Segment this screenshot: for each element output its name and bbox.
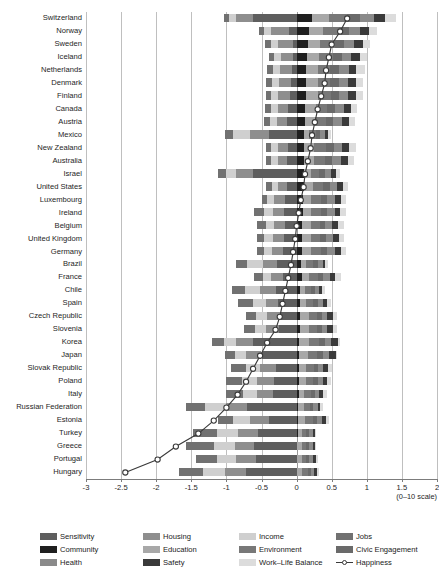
x-tick-label: -1 (223, 483, 230, 492)
happiness-marker (309, 133, 314, 138)
legend-label: Work–Life Balance (259, 559, 323, 567)
x-tick-mark (262, 479, 263, 482)
legend: SensitivityHousingIncomeJobsCommunityEdu… (40, 531, 432, 570)
legend-swatch-icon (143, 533, 160, 540)
row-label-switzerland: Switzerland (43, 12, 82, 23)
row-label-greece: Greece (57, 440, 82, 451)
happiness-marker (288, 262, 293, 267)
legend-item-health[interactable]: Health (40, 559, 82, 567)
x-tick-label: -3 (83, 483, 90, 492)
happiness-marker (308, 146, 313, 151)
happiness-marker (294, 223, 299, 228)
legend-item-happiness[interactable]: Happiness (336, 559, 392, 567)
legend-label: Jobs (356, 533, 372, 541)
x-tick-mark (332, 479, 333, 482)
legend-item-housing[interactable]: Housing (143, 533, 191, 541)
row-label-iceland: Iceland (58, 51, 83, 62)
row-label-russian-federation: Russian Federation (16, 401, 82, 412)
happiness-line (86, 12, 437, 479)
legend-label: Sensitivity (60, 533, 94, 541)
legend-item-work-life-balance[interactable]: Work–Life Balance (239, 559, 323, 567)
legend-label: Income (259, 533, 284, 541)
x-tick-mark (297, 479, 298, 482)
x-tick-label: 0 (294, 483, 298, 492)
legend-item-education[interactable]: Education (143, 546, 197, 554)
x-tick-label: -1.5 (185, 483, 198, 492)
legend-item-civic-engagement[interactable]: Civic Engagement (336, 546, 418, 554)
legend-label: Community (60, 546, 98, 554)
happiness-marker (283, 288, 288, 293)
legend-item-jobs[interactable]: Jobs (336, 533, 372, 541)
x-tick-label: -2.5 (115, 483, 128, 492)
legend-swatch-icon (336, 546, 353, 553)
happiness-marker (301, 185, 306, 190)
legend-line-marker-icon (336, 559, 353, 566)
row-label-denmark: Denmark (51, 77, 82, 88)
x-tick-mark (402, 479, 403, 482)
row-label-korea: Korea (62, 336, 82, 347)
row-label-germany: Germany (51, 246, 82, 257)
happiness-polyline (125, 18, 347, 472)
row-label-turkey: Turkey (59, 427, 82, 438)
row-label-slovenia: Slovenia (53, 323, 82, 334)
happiness-marker (265, 340, 270, 345)
row-label-slovak-republic: Slovak Republic (28, 362, 82, 373)
row-label-australia: Australia (52, 155, 82, 166)
x-tick-mark (156, 479, 157, 482)
legend-swatch-icon (40, 546, 57, 553)
row-label-sweden: Sweden (55, 38, 82, 49)
happiness-marker (315, 107, 320, 112)
x-tick-label: -2 (153, 483, 160, 492)
legend-label: Health (60, 559, 82, 567)
happiness-marker (211, 418, 216, 423)
row-label-hungary: Hungary (53, 466, 82, 477)
legend-item-income[interactable]: Income (239, 533, 284, 541)
legend-item-environment[interactable]: Environment (239, 546, 302, 554)
happiness-marker (196, 431, 201, 436)
happiness-marker (250, 366, 255, 371)
happiness-marker (235, 392, 240, 397)
happiness-marker (273, 327, 278, 332)
happiness-marker (123, 470, 128, 475)
happiness-marker (322, 81, 327, 86)
legend-item-safety[interactable]: Safety (143, 559, 185, 567)
legend-label: Education (163, 546, 197, 554)
x-tick-mark (86, 479, 87, 482)
row-label-spain: Spain (63, 297, 82, 308)
legend-item-sensitivity[interactable]: Sensitivity (40, 533, 94, 541)
happiness-marker (280, 301, 285, 306)
legend-swatch-icon (239, 546, 256, 553)
happiness-marker (323, 68, 328, 73)
x-tick-mark (437, 479, 438, 482)
happiness-marker (296, 210, 301, 215)
happiness-marker (290, 249, 295, 254)
x-axis-scale-note: (0–10 scale) (396, 492, 437, 501)
legend-swatch-icon (40, 533, 57, 540)
row-label-finland: Finland (57, 90, 82, 101)
x-tick-label: 0.5 (326, 483, 337, 492)
legend-row: CommunityEducationEnvironmentCivic Engag… (40, 544, 432, 557)
legend-row: SensitivityHousingIncomeJobs (40, 531, 432, 544)
row-label-chile: Chile (65, 284, 82, 295)
row-label-norway: Norway (56, 25, 82, 36)
happiness-marker (319, 94, 324, 99)
happiness-marker (155, 457, 160, 462)
x-tick-label: 1.5 (397, 483, 408, 492)
happiness-marker (298, 198, 303, 203)
row-label-united-kingdom: United Kingdom (28, 233, 82, 244)
happiness-marker (258, 353, 263, 358)
x-tick-mark (226, 479, 227, 482)
happiness-marker (224, 405, 229, 410)
row-label-brazil: Brazil (63, 258, 82, 269)
legend-swatch-icon (239, 533, 256, 540)
row-label-poland: Poland (58, 375, 82, 386)
legend-item-community[interactable]: Community (40, 546, 98, 554)
legend-swatch-icon (239, 559, 256, 566)
row-label-estonia: Estonia (57, 414, 82, 425)
happiness-marker (243, 379, 248, 384)
legend-label: Civic Engagement (356, 546, 418, 554)
row-label-ireland: Ireland (59, 207, 82, 218)
happiness-marker (326, 55, 331, 60)
x-tick-mark (367, 479, 368, 482)
row-label-france: France (58, 271, 82, 282)
